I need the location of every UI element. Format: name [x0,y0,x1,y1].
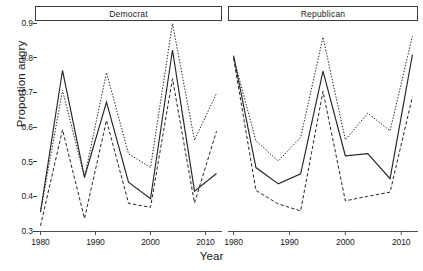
y-tick-label: 0.4 [7,191,33,201]
data-series-dashed [234,58,413,211]
plot-panel-republican [228,23,418,231]
x-tick-label: 1980 [31,237,50,247]
y-tick-label: 0.5 [7,157,33,167]
data-series-dotted [234,36,413,161]
x-axis-label: Year [0,250,423,262]
y-tick-label: 0.7 [7,87,33,97]
x-tick-label: 1990 [86,237,105,247]
data-series-solid [41,50,217,212]
panel-strip-democrat: Democrat [35,6,222,21]
panel-plot-area [228,23,418,232]
panel-strip-label: Democrat [36,7,221,21]
panel-plot-area [35,23,222,232]
y-tick-label: 0.9 [7,18,33,28]
plot-panel-democrat [35,23,222,231]
x-tick-label: 2010 [196,237,215,247]
y-tick-label: 0.8 [7,53,33,63]
chart-figure: Proportion angry 0.30.40.50.60.70.80.9 D… [0,0,423,271]
x-tick-label: 1980 [224,237,243,247]
data-series-dotted [41,24,217,212]
x-axis-democrat: 1980199020002010 [35,237,222,249]
x-tick-label: 2000 [141,237,160,247]
x-tick-label: 2000 [336,237,355,247]
data-series-solid [234,55,413,184]
y-tick-label: 0.3 [7,226,33,236]
x-tick-label: 2010 [392,237,411,247]
x-tick-label: 1990 [280,237,299,247]
y-axis: 0.30.40.50.60.70.80.9 [3,0,33,271]
y-tick-label: 0.6 [7,122,33,132]
x-axis-republican: 1980199020002010 [228,237,418,249]
panel-strip-republican: Republican [228,6,418,21]
panel-strip-label: Republican [229,7,417,21]
